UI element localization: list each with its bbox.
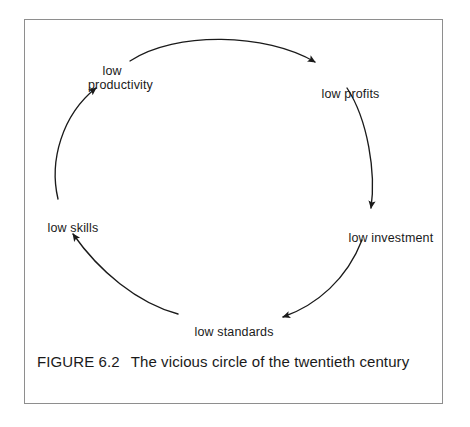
caption-line: FIGURE 6.2The vicious circle of the twen… [37,352,427,371]
node-label-low-investment: low investment [334,216,433,260]
node-text-low-profits: low profits [322,87,380,101]
caption-figure-number: FIGURE 6.2 [37,353,120,370]
node-label-low-productivity: low productivity [88,49,153,107]
node-label-low-standards: low standards [180,310,274,354]
node-text-low-skills: low skills [48,221,99,235]
node-text-low-investment: low investment [349,231,434,245]
caption-figure-title: The vicious circle of the twentieth cent… [131,353,410,370]
figure-caption: FIGURE 6.2The vicious circle of the twen… [37,352,427,371]
figure-container: low productivity low profits low investm… [0,0,470,427]
node-text-low-productivity: low productivity [88,64,153,93]
node-text-low-standards: low standards [195,325,274,339]
node-label-low-profits: low profits [307,72,379,116]
node-label-low-skills: low skills [33,206,98,250]
